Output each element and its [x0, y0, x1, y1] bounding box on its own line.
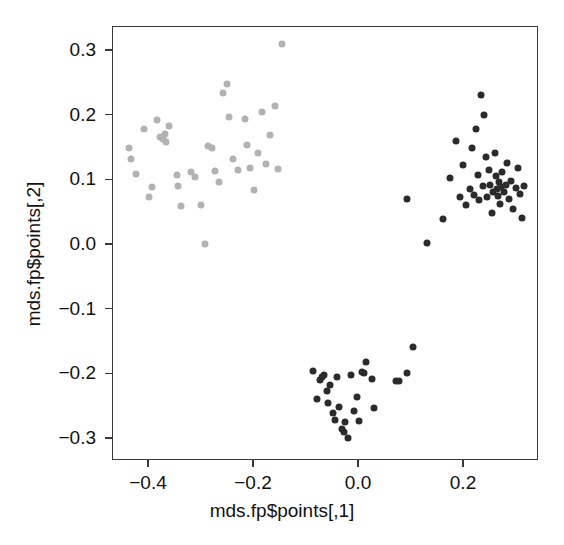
data-point: [481, 111, 488, 118]
data-point: [368, 375, 375, 382]
data-point: [166, 123, 173, 130]
data-point: [518, 215, 525, 222]
data-point: [314, 396, 321, 403]
data-point: [474, 172, 481, 179]
data-point: [500, 189, 507, 196]
y-axis-tick: [105, 243, 112, 244]
x-axis-label: mds.fp$points[,1]: [0, 500, 564, 522]
x-axis-tick-label: −0.4: [129, 472, 167, 494]
data-point: [440, 216, 447, 223]
data-point: [350, 407, 357, 414]
data-point: [272, 103, 279, 110]
data-point: [127, 156, 134, 163]
data-point: [192, 174, 199, 181]
data-point: [342, 419, 349, 426]
data-point: [508, 177, 515, 184]
data-point: [491, 150, 498, 157]
data-point: [499, 168, 506, 175]
data-point: [309, 367, 316, 374]
data-point: [132, 170, 139, 177]
y-axis-tick-label: 0.3: [24, 39, 96, 61]
data-point: [230, 156, 237, 163]
data-point: [247, 164, 254, 171]
data-point: [125, 145, 132, 152]
data-point: [404, 370, 411, 377]
data-point: [404, 195, 411, 202]
data-point: [242, 116, 249, 123]
y-axis-tick: [105, 179, 112, 180]
y-axis-tick: [105, 114, 112, 115]
data-point: [275, 165, 282, 172]
data-point: [212, 167, 219, 174]
data-point: [324, 400, 331, 407]
data-point: [409, 344, 416, 351]
data-point: [219, 89, 226, 96]
data-point: [149, 184, 156, 191]
data-point: [209, 145, 216, 152]
data-point: [484, 194, 491, 201]
data-point: [251, 186, 258, 193]
data-point: [477, 92, 484, 99]
data-point: [456, 193, 463, 200]
data-point: [326, 381, 333, 388]
data-point: [395, 378, 402, 385]
data-point: [321, 371, 328, 378]
data-point: [370, 405, 377, 412]
data-point: [472, 125, 479, 132]
x-axis-tick-label: 0.0: [345, 472, 371, 494]
data-point: [215, 178, 222, 185]
scatter-plot: −0.4−0.20.00.2−0.3−0.2−0.10.00.10.20.3 m…: [0, 0, 564, 545]
data-point: [278, 40, 285, 47]
y-axis-tick-label: −0.3: [24, 427, 96, 449]
data-point: [506, 195, 513, 202]
data-point: [452, 137, 459, 144]
data-point: [516, 190, 523, 197]
data-point: [356, 418, 363, 425]
data-point: [197, 202, 204, 209]
data-point: [162, 138, 169, 145]
data-point: [140, 125, 147, 132]
data-point: [259, 109, 266, 116]
data-point: [226, 113, 233, 120]
data-point: [175, 183, 182, 190]
data-point: [514, 164, 521, 171]
x-axis-tick: [357, 460, 358, 467]
data-point: [460, 162, 467, 169]
x-axis-tick: [252, 460, 253, 467]
y-axis-tick: [105, 437, 112, 438]
y-axis-label: mds.fp$points[,2]: [23, 134, 45, 374]
data-point: [476, 197, 483, 204]
data-point: [235, 167, 242, 174]
data-point: [504, 159, 511, 166]
data-point: [482, 153, 489, 160]
data-point: [262, 161, 269, 168]
data-point: [488, 209, 495, 216]
data-point: [161, 131, 168, 138]
data-point: [485, 166, 492, 173]
data-point: [363, 358, 370, 365]
data-point: [469, 145, 476, 152]
data-point: [479, 183, 486, 190]
data-point: [177, 203, 184, 210]
data-point: [243, 142, 250, 149]
data-point: [201, 241, 208, 248]
data-point: [336, 403, 343, 410]
data-point: [146, 194, 153, 201]
data-point: [353, 393, 360, 400]
data-point: [361, 370, 368, 377]
data-point: [510, 206, 517, 213]
data-point: [331, 416, 338, 423]
x-axis-tick: [462, 460, 463, 467]
data-point: [255, 150, 262, 157]
data-point: [424, 239, 431, 246]
data-point: [334, 373, 341, 380]
data-point: [496, 200, 503, 207]
y-axis-tick: [105, 373, 112, 374]
x-axis-tick-label: −0.2: [234, 472, 272, 494]
data-point: [344, 435, 351, 442]
data-point: [347, 371, 354, 378]
y-axis-tick-label: 0.2: [24, 104, 96, 126]
x-axis-tick-label: 0.2: [450, 472, 476, 494]
x-axis-tick: [147, 460, 148, 467]
y-axis-tick: [105, 308, 112, 309]
